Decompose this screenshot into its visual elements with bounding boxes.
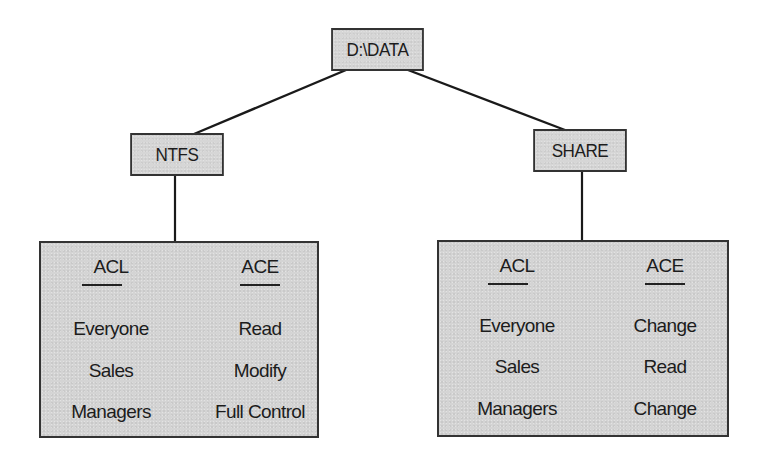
share-acl-header-underline	[488, 283, 528, 285]
share-ace-entry: Read	[595, 356, 735, 378]
share-acl-header: ACL	[447, 255, 587, 277]
ntfs-ace-header-underline	[240, 284, 280, 286]
ntfs-node: NTFS	[130, 133, 224, 176]
share-ace-column: ACE Change Read Change	[595, 242, 735, 435]
share-ace-header: ACE	[595, 255, 735, 277]
ntfs-acl-header-underline	[82, 284, 122, 286]
share-acl-entry: Everyone	[447, 315, 587, 337]
share-acl-column: ACL Everyone Sales Managers	[439, 242, 579, 435]
share-acl-entry: Sales	[447, 356, 587, 378]
root-node-d-data: D:\DATA	[331, 28, 424, 71]
ntfs-ace-header: ACE	[190, 256, 330, 278]
ntfs-ace-entry: Read	[190, 318, 330, 340]
ntfs-ace-column: ACE Read Modify Full Control	[190, 243, 330, 436]
ntfs-acl-column: ACL Everyone Sales Managers	[41, 243, 181, 436]
share-acl-entry: Managers	[447, 398, 587, 420]
share-permissions-panel: ACL Everyone Sales Managers ACE Change R…	[437, 240, 729, 437]
share-node-label: SHARE	[552, 140, 609, 162]
ntfs-acl-entry: Managers	[41, 401, 181, 423]
share-ace-header-underline	[645, 283, 685, 285]
edge-root-to-share	[408, 70, 565, 130]
ntfs-node-label: NTFS	[156, 144, 199, 166]
ntfs-acl-entry: Everyone	[41, 318, 181, 340]
share-ace-entry: Change	[595, 398, 735, 420]
ntfs-ace-entry: Modify	[190, 360, 330, 382]
ntfs-ace-entry: Full Control	[190, 401, 330, 423]
ntfs-acl-header: ACL	[41, 256, 181, 278]
edge-root-to-ntfs	[194, 70, 346, 134]
ntfs-acl-entry: Sales	[41, 360, 181, 382]
share-node: SHARE	[533, 129, 627, 172]
ntfs-permissions-panel: ACL Everyone Sales Managers ACE Read Mod…	[39, 241, 319, 438]
root-node-label: D:\DATA	[347, 39, 409, 61]
share-ace-entry: Change	[595, 315, 735, 337]
